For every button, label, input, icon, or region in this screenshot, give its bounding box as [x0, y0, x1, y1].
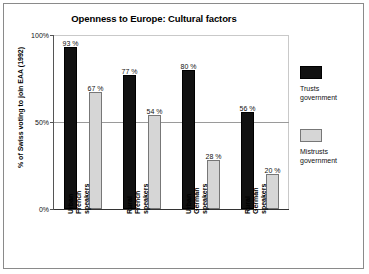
bar-value-trusts-urban-french: 93 %	[63, 40, 79, 47]
legend-item-trusts-government: Trusts government	[300, 66, 366, 102]
legend-label-line2: government	[300, 94, 337, 101]
chart-title: Openness to Europe: Cultural factors	[4, 13, 304, 24]
x-label-urban-french: Urban French speakers	[67, 150, 91, 214]
bar-value-mistrusts-rural-french: 54 %	[147, 108, 163, 115]
bar-value-mistrusts-urban-french: 67 %	[88, 85, 104, 92]
chart-legend: Trusts government Mistrusts government	[300, 66, 366, 192]
bar-value-trusts-urban-german: 80 %	[181, 63, 197, 70]
x-label-urban-german: Urban German speakers	[185, 150, 209, 214]
legend-swatch-mistrusts-government	[300, 129, 322, 142]
bar-value-trusts-rural-french: 77 %	[122, 68, 138, 75]
x-label-rural-german: Rural German speakers	[244, 150, 268, 214]
y-tick-label-0: 0%	[39, 206, 54, 213]
legend-label-line2: government	[300, 157, 337, 164]
x-label-line3: speakers	[201, 184, 208, 214]
x-label-line1: Urban	[67, 194, 74, 214]
legend-label-line1: Mistrusts	[300, 148, 328, 155]
legend-label-trusts-government: Trusts government	[300, 84, 366, 102]
y-tick-label-100: 100%	[31, 32, 54, 39]
y-axis-title: % of Swiss voting to join EAA (1992)	[17, 28, 24, 188]
x-label-line1: Urban	[185, 194, 192, 214]
x-label-line3: speakers	[83, 184, 90, 214]
x-label-line3: speakers	[260, 184, 267, 214]
x-label-line2: German	[193, 188, 200, 214]
bar-value-trusts-rural-german: 56 %	[240, 105, 256, 112]
x-label-line2: French	[134, 191, 141, 214]
y-tick-label-50: 50%	[35, 119, 54, 126]
legend-item-mistrusts-government: Mistrusts government	[300, 129, 366, 165]
chart-frame: Openness to Europe: Cultural factors % o…	[3, 3, 364, 269]
legend-swatch-trusts-government	[300, 66, 322, 79]
x-axis-labels: Urban French speakers Rural French speak…	[53, 211, 289, 274]
x-label-line2: German	[252, 188, 259, 214]
legend-label-line1: Trusts	[300, 85, 319, 92]
x-label-rural-french: Rural French speakers	[126, 150, 150, 214]
legend-label-mistrusts-government: Mistrusts government	[300, 147, 366, 165]
x-label-line1: Rural	[126, 196, 133, 214]
x-label-line3: speakers	[142, 184, 149, 214]
x-label-line1: Rural	[244, 196, 251, 214]
x-label-line2: French	[75, 191, 82, 214]
plot-top-edge	[54, 35, 289, 36]
